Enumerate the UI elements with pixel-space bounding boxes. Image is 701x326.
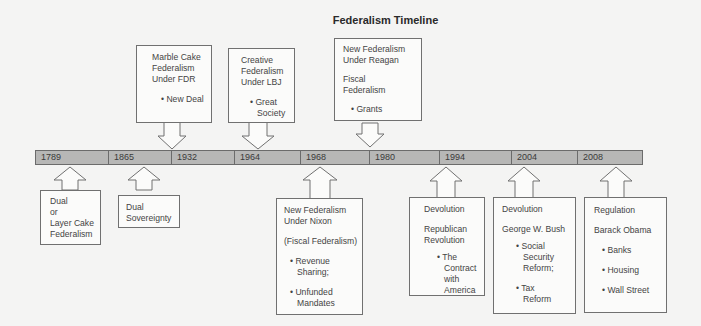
up-arrow-2008 [600, 167, 632, 198]
box-nixon: New Federalism Under Nixon (Fiscal Feder… [276, 198, 363, 315]
year-1994: 1994 [440, 151, 512, 164]
box-heading: Devolution [424, 204, 480, 215]
box-subheading-line: Revolution [424, 235, 480, 246]
bullet-text: Revenue Sharing; [295, 256, 329, 277]
box-subheading: George W. Bush [502, 224, 571, 235]
down-arrow-1980 [356, 123, 384, 147]
bullet-text: New Deal [166, 94, 203, 104]
box-dual-sovereignty: Dual Sovereignty [118, 195, 180, 228]
year-2004: 2004 [512, 151, 578, 164]
bullet-text: Banks [607, 245, 631, 255]
bullet-item: • Tax Reform [502, 283, 555, 305]
box-fdr: Marble Cake Federalism Under FDR • New D… [136, 45, 212, 123]
box-subheading: Barack Obama [594, 225, 662, 236]
down-arrow-1964 [242, 122, 274, 149]
bullet-text: Great Society [255, 97, 285, 118]
bullet-item: • Social Security Reform; [502, 241, 563, 274]
box-regulation-2008: Regulation Barack Obama • Banks • Housin… [584, 197, 667, 313]
box-heading-line: Under LBJ [241, 77, 288, 88]
box-reagan: New Federalism Under Reagan Fiscal Feder… [334, 38, 422, 121]
box-heading-line: Sovereignty [126, 213, 175, 224]
box-heading-line: Federalism [50, 229, 96, 240]
bullet-text: Wall Street [607, 285, 649, 295]
box-heading-line: New Federalism [343, 44, 415, 55]
bullet-text: Tax Reform [521, 283, 551, 304]
bullet-item: • Grants [343, 104, 415, 115]
down-arrow-1932 [158, 122, 186, 149]
box-devolution-1994: Devolution Republican Revolution • The C… [409, 197, 485, 296]
bullet-text: The Contract with America [442, 252, 476, 295]
bullet-item: • Unfunded Mandates [284, 287, 347, 309]
box-heading-line: Dual [126, 202, 175, 213]
box-heading-line: or [50, 207, 96, 218]
year-1964: 1964 [235, 151, 301, 164]
box-subheading: (Fiscal Federalism) [284, 236, 358, 247]
box-heading: Devolution [502, 204, 571, 215]
bullet-item: • Banks [594, 245, 662, 256]
bullet-item: • The Contract with America [424, 252, 480, 296]
year-1968: 1968 [301, 151, 370, 164]
box-subheading-line: Fiscal [343, 74, 415, 85]
box-heading-line: New Federalism [284, 205, 358, 216]
year-1932: 1932 [172, 151, 235, 164]
year-1865: 1865 [109, 151, 172, 164]
bullet-text: Housing [607, 265, 639, 275]
box-heading-line: Federalism [241, 66, 288, 77]
bullet-text: Unfunded Mandates [295, 287, 334, 308]
bullet-item: • Wall Street [594, 285, 662, 296]
box-heading-line: Under Reagan [343, 55, 415, 66]
bullet-item: • Revenue Sharing; [284, 256, 341, 278]
box-heading-line: Marble Cake [152, 52, 205, 63]
box-heading-line: Dual [50, 196, 96, 207]
timeline-bar: 1789 1865 1932 1964 1968 1980 1994 2004 … [35, 150, 643, 165]
bullet-text: Social Security Reform; [521, 241, 554, 273]
bullet-text: Grants [356, 104, 382, 114]
box-heading-line: Layer Cake [50, 218, 96, 229]
box-heading: Regulation [594, 205, 662, 216]
box-heading-line: Creative [241, 55, 288, 66]
box-heading-line: Under FDR [152, 74, 205, 85]
up-arrow-1789 [54, 167, 86, 190]
box-lbj: Creative Federalism Under LBJ • Great So… [228, 48, 295, 123]
bullet-item: • Housing [594, 265, 662, 276]
box-subheading-line: Federalism [343, 85, 415, 96]
box-dual-federalism: Dual or Layer Cake Federalism [40, 190, 101, 245]
year-2008: 2008 [578, 151, 642, 164]
box-heading-line: Under Nixon [284, 216, 358, 227]
up-arrow-1994 [430, 167, 462, 198]
year-1789: 1789 [36, 151, 109, 164]
box-heading-line: Federalism [152, 63, 205, 74]
year-1980: 1980 [370, 151, 440, 164]
up-arrow-1865 [128, 167, 160, 190]
bullet-item: • New Deal [152, 94, 205, 105]
box-devolution-2004: Devolution George W. Bush • Social Secur… [493, 197, 576, 314]
up-arrow-2004 [508, 167, 540, 198]
up-arrow-1968 [303, 167, 337, 199]
bullet-item: • Great Society [241, 97, 288, 119]
box-subheading-line: Republican [424, 224, 480, 235]
